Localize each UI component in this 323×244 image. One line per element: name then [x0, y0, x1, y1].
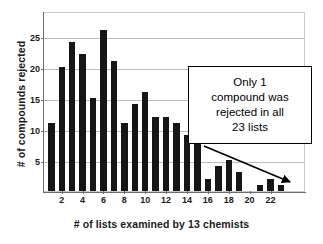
x-axis-tick-label: 4: [80, 195, 85, 205]
bar: [69, 42, 75, 191]
annotation-callout-text: Only 1compound wasrejected in all23 list…: [208, 75, 291, 135]
y-axis-tick-label: 5: [35, 157, 40, 167]
bar: [79, 54, 85, 191]
y-axis-tick-label: 25: [30, 33, 40, 43]
x-axis-tick-label: 20: [245, 195, 255, 205]
bar: [48, 123, 54, 191]
y-axis-title: # of compounds rejected: [15, 14, 27, 194]
y-axis-tick-label: 15: [30, 95, 40, 105]
bar: [173, 123, 179, 191]
bar: [236, 172, 242, 191]
x-axis-tick-label: 16: [203, 195, 213, 205]
x-axis-tick-label: 10: [140, 195, 150, 205]
bar: [100, 30, 106, 191]
x-axis-spine: [43, 192, 306, 193]
bar: [132, 104, 138, 191]
x-axis-title: # of lists examined by 13 chemists: [0, 218, 323, 230]
x-axis-tick-label: 8: [122, 195, 127, 205]
bar: [205, 179, 211, 191]
bar: [142, 92, 148, 191]
bar: [194, 141, 200, 191]
bar: [226, 160, 232, 191]
x-axis-tick-label: 22: [265, 195, 275, 205]
bar: [215, 166, 221, 191]
y-axis-spine: [43, 12, 44, 193]
x-axis-tick-label: 12: [161, 195, 171, 205]
x-axis-tick-label: 2: [59, 195, 64, 205]
x-axis-tick-label: 6: [101, 195, 106, 205]
bar: [267, 179, 273, 191]
bar: [278, 185, 284, 191]
bar: [257, 185, 263, 191]
x-axis-tick-label: 18: [224, 195, 234, 205]
bar: [111, 61, 117, 191]
bar: [90, 98, 96, 191]
bar: [121, 123, 127, 191]
y-axis-tick-label: 10: [30, 126, 40, 136]
bar-chart-figure: # of compounds rejected 510152025 246810…: [0, 0, 323, 244]
bar: [163, 117, 169, 191]
bar: [59, 67, 65, 191]
annotation-callout-box: Only 1compound wasrejected in all23 list…: [188, 66, 312, 144]
x-axis-tick-label: 14: [182, 195, 192, 205]
bar: [152, 117, 158, 191]
y-axis-tick-label: 20: [30, 64, 40, 74]
